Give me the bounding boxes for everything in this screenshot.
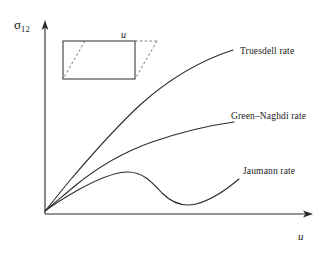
figure-canvas: σ12 u u Truesdell rate Green–Naghdi rate… — [0, 0, 330, 276]
y-axis-label: σ12 — [14, 17, 30, 34]
curve-label-green-naghdi-rate: Green–Naghdi rate — [231, 111, 306, 121]
x-axis-label: u — [298, 230, 304, 242]
inset-displacement-label: u — [121, 29, 126, 40]
curve-green-naghdi-rate — [45, 122, 234, 211]
shear-inset-group — [63, 41, 157, 79]
y-axis-label-symbol: σ — [14, 17, 21, 32]
plot-area — [0, 0, 330, 276]
inset-rectangle — [63, 41, 135, 79]
inset-shear-diagonal — [63, 41, 85, 79]
inset-shear-right-edge — [135, 41, 157, 79]
y-axis-label-subscript: 12 — [21, 24, 30, 34]
curves-group — [45, 50, 239, 211]
curve-label-truesdell-rate: Truesdell rate — [240, 46, 294, 56]
curve-label-jaumann-rate: Jaumann rate — [243, 166, 295, 176]
curve-jaumann-rate — [45, 172, 239, 211]
